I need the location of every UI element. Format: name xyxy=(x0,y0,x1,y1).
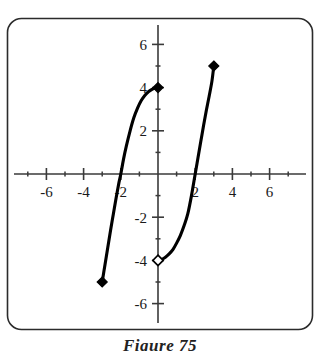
y-tick-label: -2 xyxy=(135,210,148,226)
y-tick-label: -6 xyxy=(135,296,148,312)
x-tick-label: -4 xyxy=(77,184,90,200)
figure-caption-band: Figure 75 xyxy=(0,336,320,351)
figure-caption: Figure 75 xyxy=(0,336,320,351)
y-tick-label: -4 xyxy=(135,253,148,269)
x-tick-label: 6 xyxy=(266,184,274,200)
x-tick-label: -6 xyxy=(40,184,53,200)
y-tick-label: 6 xyxy=(140,37,148,53)
y-tick-label: 2 xyxy=(140,123,148,139)
coordinate-plot: -6-4-2246 642-2-4-6 xyxy=(0,0,320,351)
figure-container: -6-4-2246 642-2-4-6 Figure 75 xyxy=(0,0,320,351)
x-tick-label: 4 xyxy=(229,184,237,200)
